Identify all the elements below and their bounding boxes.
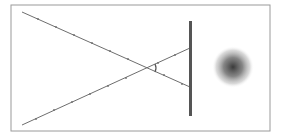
optics-diagram bbox=[0, 0, 283, 139]
blur-spot bbox=[212, 46, 254, 88]
screen bbox=[189, 21, 192, 116]
